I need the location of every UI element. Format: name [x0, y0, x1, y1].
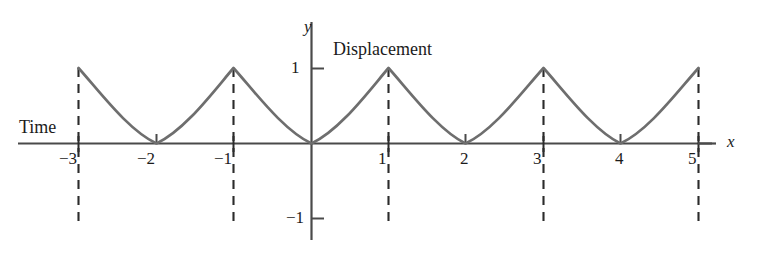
time-annotation-label: Time	[19, 118, 56, 136]
x-tick-label-neg2: −2	[137, 150, 155, 167]
x-tick-label-neg1: −1	[214, 150, 232, 167]
figure-container: y x Time Displacement 1 −1 −3 −2 −1 1 2 …	[0, 0, 759, 259]
y-axis-label: y	[304, 18, 312, 35]
x-tick-label-1: 1	[378, 150, 387, 167]
y-tick-label-neg1: −1	[286, 209, 304, 226]
x-tick-label-neg3: −3	[59, 150, 77, 167]
displacement-annotation-label: Displacement	[333, 40, 432, 58]
x-axis-label: x	[727, 133, 735, 150]
dashed-marker-lines	[79, 68, 699, 228]
x-tick-label-5: 5	[688, 150, 697, 167]
x-tick-label-2: 2	[460, 150, 469, 167]
y-tick-label-1: 1	[291, 59, 300, 76]
x-tick-label-4: 4	[615, 150, 624, 167]
x-tick-label-3: 3	[533, 150, 542, 167]
